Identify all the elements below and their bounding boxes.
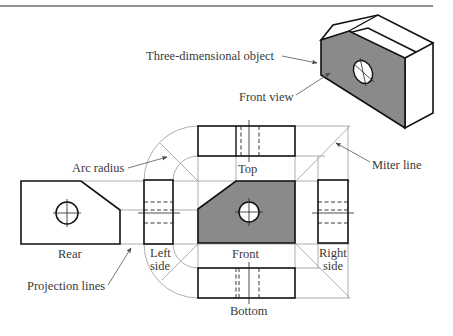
right-side-view <box>312 180 354 243</box>
label-front-view: Front view <box>239 90 294 104</box>
label-left-side-2: side <box>150 259 171 273</box>
label-miter-line: Miter line <box>372 158 422 172</box>
label-projection-lines: Projection lines <box>27 279 105 293</box>
front-view <box>198 181 295 243</box>
label-arc-radius: Arc radius <box>72 161 125 175</box>
top-view <box>198 120 295 162</box>
label-left-side-1: Left <box>150 246 171 260</box>
diagram-canvas: Three-dimensional object Front view <box>0 0 453 336</box>
label-right-side-2: side <box>323 259 344 273</box>
three-dimensional-object <box>321 15 433 128</box>
label-three-dimensional-object: Three-dimensional object <box>146 49 275 63</box>
rear-view <box>21 181 120 244</box>
label-front: Front <box>232 247 260 261</box>
left-side-view <box>138 180 180 244</box>
label-bottom: Bottom <box>230 304 268 318</box>
label-rear: Rear <box>58 247 82 261</box>
label-right-side-1: Right <box>319 246 347 260</box>
bottom-view <box>198 262 295 304</box>
label-top: Top <box>238 162 257 176</box>
